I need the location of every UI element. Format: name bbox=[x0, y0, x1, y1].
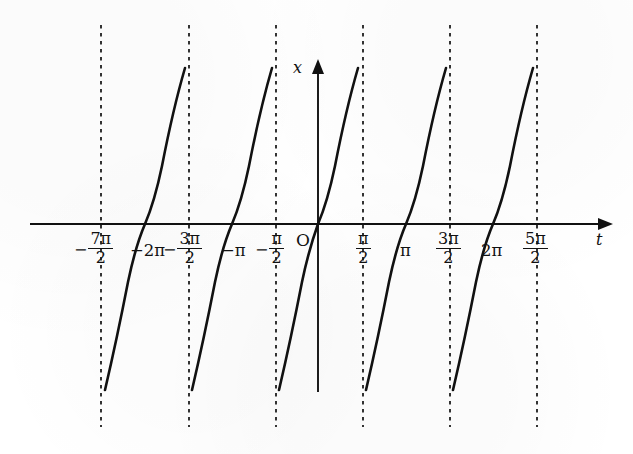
fraction-denominator: 2 bbox=[356, 248, 371, 266]
fraction-denominator: 2 bbox=[177, 248, 202, 266]
fraction-numerator: π bbox=[269, 231, 284, 248]
fraction-numerator: 3π bbox=[177, 231, 202, 248]
x-axis-label: x bbox=[293, 60, 302, 76]
tick-label-pi-over-2: π2 bbox=[356, 232, 371, 267]
fraction-denominator: 2 bbox=[523, 248, 548, 266]
fraction-denominator: 2 bbox=[436, 248, 461, 266]
tangent-curve-group bbox=[105, 68, 533, 390]
tangent-branch-4 bbox=[366, 68, 446, 390]
tangent-branch-5 bbox=[453, 68, 533, 390]
tick-label-minus-7pi-over-2: −7π2 bbox=[74, 232, 113, 267]
fraction-numerator: 3π bbox=[436, 231, 461, 248]
fraction: π2 bbox=[269, 231, 284, 266]
fraction-numerator: π bbox=[356, 231, 371, 248]
fraction-numerator: 7π bbox=[88, 231, 113, 248]
t-axis-label: t bbox=[596, 232, 602, 248]
tick-label-minus-2pi: −2π bbox=[130, 243, 165, 260]
asymptote-group bbox=[101, 25, 537, 427]
tangent-graph-figure: −7π2 −2π −3π2 −π −π2 O π2 π 3π2 2π 5π2 x… bbox=[0, 0, 633, 454]
fraction: 5π2 bbox=[523, 231, 548, 266]
tangent-branch-1 bbox=[105, 68, 185, 390]
tick-label-minus-pi: −π bbox=[221, 243, 246, 260]
fraction: 3π2 bbox=[436, 231, 461, 266]
tick-sign: − bbox=[163, 242, 177, 258]
fraction-numerator: 5π bbox=[523, 231, 548, 248]
tick-label-5pi-over-2: 5π2 bbox=[523, 232, 548, 267]
graph-canvas bbox=[0, 0, 633, 454]
axes-group bbox=[30, 59, 613, 392]
tick-label-2pi: 2π bbox=[481, 243, 502, 260]
fraction: 7π2 bbox=[88, 231, 113, 266]
fraction-denominator: 2 bbox=[269, 248, 284, 266]
tick-label-3pi-over-2: 3π2 bbox=[436, 232, 461, 267]
tick-sign: − bbox=[255, 242, 269, 258]
fraction-denominator: 2 bbox=[88, 248, 113, 266]
tick-label-minus-pi-over-2: −π2 bbox=[255, 232, 284, 267]
t-axis-arrow bbox=[598, 218, 613, 230]
x-axis-arrow bbox=[312, 59, 324, 74]
tick-label-minus-3pi-over-2: −3π2 bbox=[163, 232, 202, 267]
fraction: π2 bbox=[356, 231, 371, 266]
origin-label: O bbox=[296, 232, 310, 249]
fraction: 3π2 bbox=[177, 231, 202, 266]
tick-label-pi: π bbox=[400, 243, 411, 260]
tick-sign: − bbox=[74, 242, 88, 258]
tangent-branch-2 bbox=[192, 68, 272, 390]
